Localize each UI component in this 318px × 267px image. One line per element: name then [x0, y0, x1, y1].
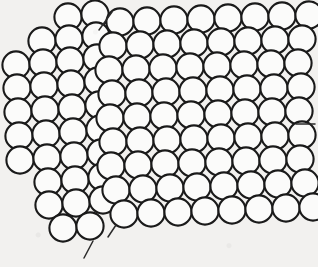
bubble-circle: [110, 200, 137, 227]
bubble-circle: [133, 7, 160, 34]
bubble-circle: [149, 54, 176, 81]
bubble-circle: [177, 101, 204, 128]
bubble-circle: [261, 26, 288, 53]
bubble-circle: [286, 145, 313, 172]
bubble-circle: [230, 51, 257, 78]
bubble-circle: [257, 50, 284, 77]
bubble-circle: [258, 98, 285, 125]
bubble-circle: [126, 31, 153, 58]
bubble-circle: [241, 3, 268, 30]
bubble-circle: [204, 100, 231, 127]
bubble-circle: [6, 146, 33, 173]
bubble-circle: [288, 25, 315, 52]
bubble-circle: [151, 150, 178, 177]
bubble-raft-figure: [0, 0, 318, 267]
bubble-circle: [284, 49, 311, 76]
bubble-circle: [203, 52, 230, 79]
bubble-circle: [176, 53, 203, 80]
bubble-circle: [259, 146, 286, 173]
bubble-circle: [214, 4, 241, 31]
bubble-circle: [272, 194, 299, 221]
bubble-circle: [122, 55, 149, 82]
bubble-circle: [95, 56, 122, 83]
bubble-circle: [99, 32, 126, 59]
bubble-circle: [137, 199, 164, 226]
bubble-circle: [123, 103, 150, 130]
bubble-circle: [180, 29, 207, 56]
bubble-circle: [97, 152, 124, 179]
bubble-circle: [218, 196, 245, 223]
bubble-circle: [234, 27, 261, 54]
bubble-circle: [153, 30, 180, 57]
bubble-circle: [245, 195, 272, 222]
bubble-circle: [49, 214, 76, 241]
bubble-circle: [268, 2, 295, 29]
bubble-circle: [187, 5, 214, 32]
bubble-circle: [231, 99, 258, 126]
bubble-circle: [150, 102, 177, 129]
bubble-circle: [285, 97, 312, 124]
bubble-circle: [106, 8, 133, 35]
bubble-circle: [76, 212, 103, 239]
bubble-circle: [191, 197, 218, 224]
bubble-circle: [178, 149, 205, 176]
bubble-circle: [160, 6, 187, 33]
bubble-circle: [124, 151, 151, 178]
bubble-circle: [299, 193, 318, 220]
bubble-circle: [96, 104, 123, 131]
bubble-circle: [232, 147, 259, 174]
bubble-circle: [205, 148, 232, 175]
bubble-circle: [207, 28, 234, 55]
bubble-circle: [295, 1, 318, 28]
bubble-circle: [164, 198, 191, 225]
raft-canvas: [0, 0, 318, 267]
